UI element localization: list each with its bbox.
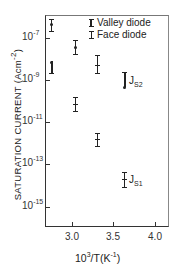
data-point-js1 [73, 97, 78, 112]
y-tick-base: 10 [22, 73, 33, 84]
x-tick-label: 3.0 [65, 231, 79, 242]
y-tick-label: 10-15 [22, 199, 43, 211]
legend-label-valley: Valley diode [97, 17, 151, 29]
x-axis-label: 103/T(K-1) [75, 251, 120, 264]
valley-errorbar-icon [88, 18, 94, 28]
data-point-js1 [49, 61, 54, 74]
x-label-mid: /T(K [91, 252, 111, 264]
face-errorbar-icon [88, 30, 94, 40]
y-tick [45, 207, 50, 208]
y-tick-label: 10-7 [22, 30, 39, 42]
y-tick [45, 80, 50, 81]
y-tick-base: 10 [22, 31, 33, 42]
annotation-js1-sub: S1 [134, 180, 143, 187]
y-tick-base: 10 [22, 115, 33, 126]
y-tick-exp: -7 [33, 29, 39, 36]
y-axis-label: SATURATION CURRENT (Acm-2) [9, 25, 22, 225]
x-label-end: ) [117, 252, 121, 264]
data-point-js2 [73, 40, 78, 55]
legend-item-valley: Valley diode [88, 17, 151, 29]
data-point-js2 [95, 55, 100, 74]
y-tick [45, 38, 50, 39]
annotation-js2: JS2 [129, 75, 143, 88]
y-tick [45, 122, 50, 123]
y-tick-exp: -9 [33, 71, 39, 78]
y-tick-base: 10 [22, 200, 33, 211]
plot-frame [45, 15, 169, 227]
x-tick [72, 222, 73, 227]
legend: Valley diode Face diode [88, 17, 151, 41]
y-axis-label-end: ) [12, 49, 23, 52]
x-tick [113, 222, 114, 227]
y-tick [45, 164, 50, 165]
annotation-js2-sub: S2 [134, 81, 143, 88]
y-axis-label-text: SATURATION CURRENT (Acm [12, 60, 23, 200]
x-tick [155, 222, 156, 227]
x-tick-label: 4.0 [148, 231, 162, 242]
y-tick-label: 10-13 [22, 156, 43, 168]
legend-label-face: Face diode [97, 29, 146, 41]
y-tick-exp: -15 [33, 198, 43, 205]
legend-item-face: Face diode [88, 29, 151, 41]
y-tick-exp: -13 [33, 155, 43, 162]
data-point-js2 [122, 72, 127, 90]
y-tick-label: 10-9 [22, 72, 39, 84]
y-tick-exp: -11 [33, 113, 43, 120]
data-point-js2 [49, 19, 54, 32]
annotation-js1: JS1 [129, 174, 143, 187]
x-tick-label: 3.5 [106, 231, 120, 242]
x-label-base: 10 [75, 252, 87, 264]
data-point-js1 [122, 172, 127, 188]
y-tick-label: 10-11 [22, 114, 43, 126]
y-axis-label-exp: -2 [9, 52, 18, 60]
y-tick-base: 10 [22, 157, 33, 168]
data-point-js1 [95, 133, 100, 147]
